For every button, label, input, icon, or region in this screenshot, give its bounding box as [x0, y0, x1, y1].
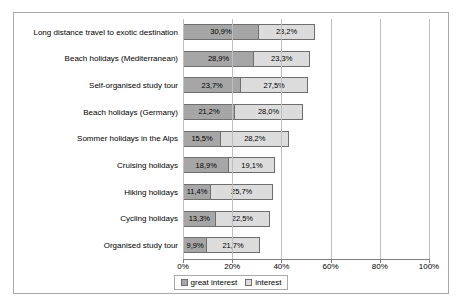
gridline — [380, 19, 381, 259]
chart-row: 15,5%28,2% — [183, 126, 429, 153]
category-label: Cycling holidays — [9, 206, 183, 233]
stacked-bar[interactable]: 30,9%23,2% — [183, 24, 315, 40]
chart-row: 9,9%21,7% — [183, 232, 429, 259]
category-label: Sommer holidays in the Alps — [9, 126, 183, 153]
bar-segment-interest[interactable]: 23,2% — [258, 24, 315, 40]
plot-area: 30,9%23,2%28,9%23,3%23,7%27,5%21,2%28,0%… — [183, 19, 429, 259]
chart-row: 30,9%23,2% — [183, 19, 429, 46]
stacked-bar[interactable]: 21,2%28,0% — [183, 104, 303, 120]
legend-box: great interestinterest — [174, 275, 289, 290]
bar-segment-great-interest[interactable]: 30,9% — [183, 24, 259, 40]
stacked-bar[interactable]: 28,9%23,3% — [183, 51, 310, 67]
bar-segment-great-interest[interactable]: 21,2% — [183, 104, 235, 120]
bar-segment-great-interest[interactable]: 18,9% — [183, 157, 229, 173]
chart-frame: Long distance travel to exotic destinati… — [13, 12, 449, 294]
legend-swatch-icon — [181, 279, 188, 286]
chart-row: 18,9%19,1% — [183, 152, 429, 179]
stacked-bar[interactable]: 15,5%28,2% — [183, 131, 289, 147]
chart-row: 23,7%27,5% — [183, 72, 429, 99]
gridline — [331, 19, 332, 259]
category-label: Hiking holidays — [9, 179, 183, 206]
chart-row: 13,3%22,5% — [183, 206, 429, 233]
bar-segment-great-interest[interactable]: 11,4% — [183, 184, 211, 200]
chart-row: 21,2%28,0% — [183, 99, 429, 126]
bar-segment-interest[interactable]: 28,2% — [220, 131, 289, 147]
gridline — [281, 19, 282, 259]
bar-segment-great-interest[interactable]: 13,3% — [183, 211, 216, 227]
x-axis-tick-label: 0% — [177, 262, 189, 271]
category-label: Organised study tour — [9, 232, 183, 259]
bar-segment-interest[interactable]: 25,7% — [210, 184, 273, 200]
bar-segment-interest[interactable]: 19,1% — [228, 157, 275, 173]
chart-legend: great interestinterest — [14, 275, 448, 290]
chart-row: 11,4%25,7% — [183, 179, 429, 206]
stacked-bar[interactable]: 13,3%22,5% — [183, 211, 270, 227]
legend-item[interactable]: great interest — [181, 278, 238, 287]
x-axis-tick-label: 80% — [372, 262, 388, 271]
bar-segment-great-interest[interactable]: 15,5% — [183, 131, 221, 147]
x-axis-line — [183, 259, 429, 260]
legend-label: great interest — [191, 278, 238, 287]
category-label: Beach holidays (Germany) — [9, 99, 183, 126]
category-label: Long distance travel to exotic destinati… — [9, 19, 183, 46]
x-axis-tick-label: 40% — [273, 262, 289, 271]
bar-rows: 30,9%23,2%28,9%23,3%23,7%27,5%21,2%28,0%… — [183, 19, 429, 259]
legend-swatch-icon — [245, 279, 252, 286]
gridline — [232, 19, 233, 259]
category-label: Cruising holidays — [9, 152, 183, 179]
legend-label: interest — [255, 278, 281, 287]
category-label: Beach holidays (Mediterranean) — [9, 46, 183, 73]
legend-item[interactable]: interest — [245, 278, 281, 287]
x-axis-tick-label: 60% — [323, 262, 339, 271]
x-axis-tick-label: 20% — [224, 262, 240, 271]
chart-row: 28,9%23,3% — [183, 46, 429, 73]
stacked-bar[interactable]: 18,9%19,1% — [183, 157, 275, 173]
bar-segment-interest[interactable]: 28,0% — [234, 104, 303, 120]
category-axis-labels: Long distance travel to exotic destinati… — [14, 19, 183, 259]
category-label: Self-organised study tour — [9, 72, 183, 99]
stacked-bar[interactable]: 11,4%25,7% — [183, 184, 273, 200]
stacked-bar[interactable]: 9,9%21,7% — [183, 237, 260, 253]
bar-segment-interest[interactable]: 27,5% — [240, 77, 308, 93]
gridline — [183, 19, 184, 259]
gridline — [429, 19, 430, 259]
bar-segment-interest[interactable]: 22,5% — [215, 211, 270, 227]
bar-segment-great-interest[interactable]: 9,9% — [183, 237, 207, 253]
x-axis-tick-label: 100% — [419, 262, 439, 271]
stacked-bar[interactable]: 23,7%27,5% — [183, 77, 308, 93]
bar-segment-great-interest[interactable]: 28,9% — [183, 51, 254, 67]
